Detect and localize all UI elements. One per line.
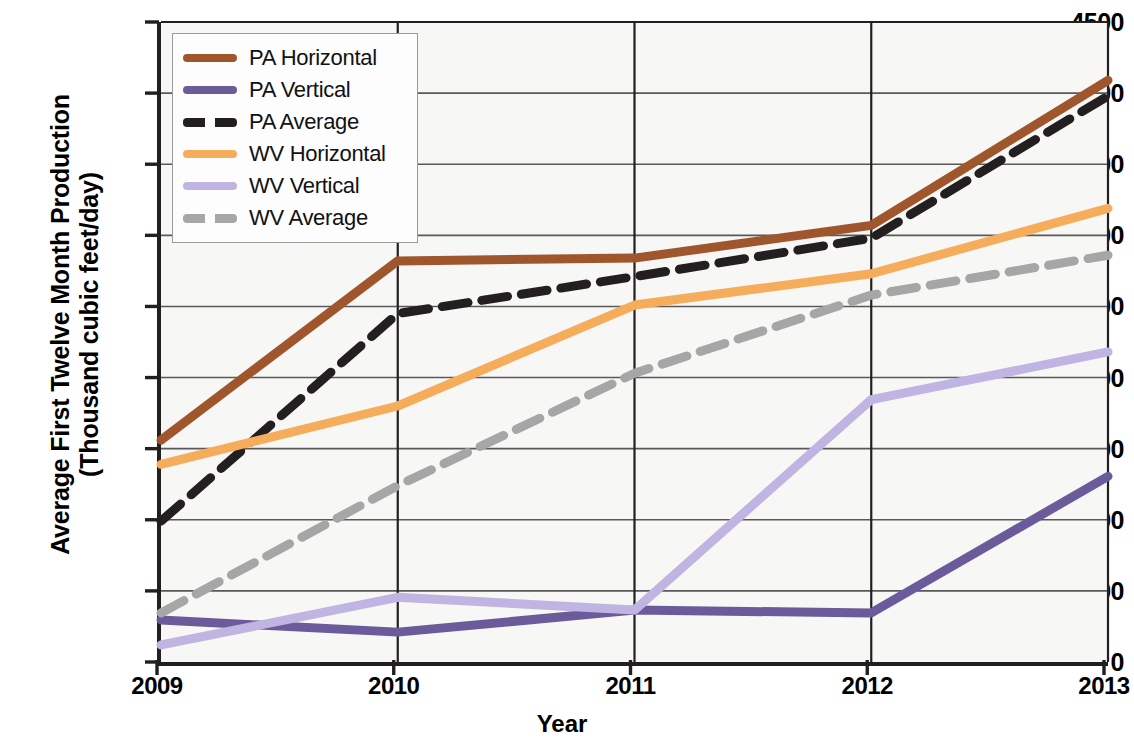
legend-swatch-icon: [183, 214, 237, 223]
legend-label: WV Average: [249, 205, 368, 231]
legend-item[interactable]: PA Average: [183, 106, 407, 138]
legend-item[interactable]: PA Horizontal: [183, 42, 407, 74]
y-axis-title: Average First Twelve Month Production (T…: [46, 5, 103, 645]
legend-item[interactable]: WV Vertical: [183, 170, 407, 202]
legend-label: PA Average: [249, 109, 359, 135]
legend-swatch-icon: [183, 86, 237, 94]
legend-label: WV Horizontal: [249, 141, 386, 167]
legend-dash-segment: [183, 214, 237, 223]
chart-legend: PA HorizontalPA VerticalPA AverageWV Hor…: [172, 33, 418, 243]
legend-swatch-icon: [183, 118, 237, 127]
legend-swatch-icon: [183, 182, 237, 190]
legend-item[interactable]: PA Vertical: [183, 74, 407, 106]
legend-dash-segment: [183, 118, 237, 127]
legend-swatch-icon: [183, 150, 237, 158]
x-axis-title: Year: [0, 710, 1124, 738]
legend-label: PA Horizontal: [249, 45, 377, 71]
x-tick-label: 2010: [334, 672, 454, 700]
x-tick-label: 2013: [1044, 672, 1134, 700]
legend-label: WV Vertical: [249, 173, 359, 199]
y-axis-title-line1: Average First Twelve Month Production: [46, 5, 75, 645]
legend-item[interactable]: WV Horizontal: [183, 138, 407, 170]
legend-label: PA Vertical: [249, 77, 350, 103]
vertical-axis-lines: [398, 22, 1108, 662]
x-tick-label: 2011: [571, 672, 691, 700]
y-axis-title-line2: (Thousand cubic feet/day): [74, 5, 103, 645]
legend-swatch-icon: [183, 54, 237, 62]
x-tick-label: 2012: [807, 672, 927, 700]
legend-item[interactable]: WV Average: [183, 202, 407, 234]
x-tick-label: 2009: [97, 672, 217, 700]
